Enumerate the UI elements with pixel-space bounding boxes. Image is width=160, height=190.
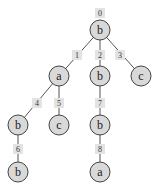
svg-text:3: 3 [118,51,122,60]
node-index-label: 3 [115,50,125,60]
svg-text:b: b [15,165,21,179]
svg-text:5: 5 [57,99,61,108]
svg-text:7: 7 [98,99,102,108]
svg-text:b: b [97,69,103,83]
svg-text:4: 4 [35,99,39,108]
node-index-label: 1 [72,50,82,60]
node-index-label: 6 [13,144,23,154]
svg-text:a: a [56,69,62,83]
tree-node-4: b [8,115,28,135]
node-index-label: 7 [95,98,105,108]
tree-node-2: b [90,66,110,86]
svg-text:b: b [97,23,103,37]
node-index-label: 8 [95,144,105,154]
svg-text:c: c [56,118,61,132]
node-index-label: 2 [95,50,105,60]
node-index-label: 0 [95,8,105,18]
node-index-label: 4 [32,98,42,108]
svg-text:b: b [15,118,21,132]
tree-diagram: 012345678 babcbcbba [0,0,160,190]
svg-text:0: 0 [98,9,102,18]
tree-node-0: b [90,20,110,40]
tree-node-3: c [131,66,151,86]
svg-text:2: 2 [98,51,102,60]
tree-node-7: b [90,115,110,135]
tree-node-8: a [90,162,110,182]
svg-text:c: c [138,69,143,83]
tree-node-1: a [49,66,69,86]
svg-text:8: 8 [98,145,102,154]
svg-text:1: 1 [75,51,79,60]
tree-node-5: c [49,115,69,135]
node-index-label: 5 [54,98,64,108]
svg-text:b: b [97,118,103,132]
svg-text:a: a [97,165,103,179]
nodes-layer: babcbcbba [8,20,151,182]
svg-text:6: 6 [16,145,20,154]
tree-node-6: b [8,162,28,182]
